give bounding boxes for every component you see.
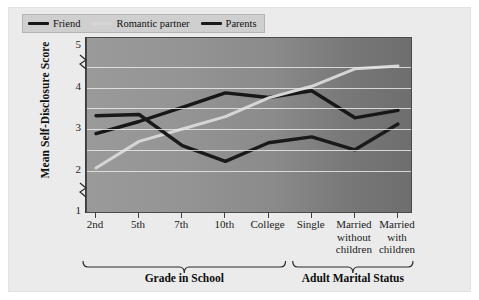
legend-item-friend: Friend [28,18,80,29]
group-title-marital: Adult Marital Status [293,272,413,284]
gridline-3 [87,129,411,130]
legend-label: Parents [226,18,257,29]
x-tick-label-7: Marriedwithchildren [371,218,423,256]
y-tick-label-2: 2 [59,163,81,175]
y-axis-title: Mean Self-Disclosure Score [39,25,51,195]
group-title-grade: Grade in School [83,272,286,284]
legend-label: Romantic partner [116,18,189,29]
gridline-3-5 [87,108,411,109]
x-axis-tick-labels: 2nd5th7th10thCollegeSingleMarriedwithout… [69,218,429,264]
chart-legend: FriendRomantic partnerParents [22,14,265,33]
gridline-2 [87,171,411,172]
series-line-friend [96,91,398,134]
legend-swatch-icon [201,22,222,26]
y-tick-label-3: 3 [59,121,81,133]
y-tick-label-5: 5 [59,38,81,50]
gridline-4-5 [87,67,411,68]
chart-figure: Mean Self-Disclosure Score 12345 FriendR… [9,8,470,291]
y-axis-break-0 [79,182,91,198]
y-tick-label-4: 4 [59,80,81,92]
x-tick-label-line: Married [371,218,423,231]
x-tick-label-line: children [371,243,423,256]
plot-area [86,37,412,213]
legend-item-romantic-partner: Romantic partner [91,18,189,29]
legend-swatch-icon [91,22,112,26]
series-lines [87,38,411,212]
gridline-4 [87,88,411,89]
y-tick-label-1: 1 [59,204,81,216]
x-tick-label-line: with [371,231,423,244]
legend-swatch-icon [28,22,49,26]
gridline-2-5 [87,150,411,151]
y-axis-break-1 [79,54,91,70]
legend-label: Friend [53,18,80,29]
legend-item-parents: Parents [201,18,257,29]
